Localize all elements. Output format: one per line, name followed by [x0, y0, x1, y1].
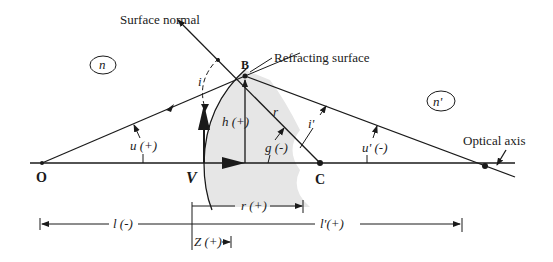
incident-ray-arrow-icon: [166, 104, 174, 112]
label-medium-n: n: [99, 57, 106, 72]
label-dim-r: r (+): [241, 198, 267, 213]
label-point-c: C: [315, 172, 325, 187]
label-angle-u-prime: u' (-): [362, 140, 388, 155]
angle-i-arrow-icon: [201, 104, 209, 112]
refraction-diagram: Surface normal Refracting surface Optica…: [0, 0, 553, 262]
angle-i-prime-pointer2: [320, 106, 326, 115]
label-height-h: h (+): [222, 114, 249, 129]
label-angle-u: u (+): [130, 138, 157, 153]
point-b-dot: [243, 74, 248, 79]
angle-u-prime-pointer: [373, 126, 377, 138]
point-c-dot: [317, 160, 323, 166]
angle-u-pointer: [134, 125, 140, 138]
point-o-dot: [40, 161, 44, 165]
label-surface-normal: Surface normal: [120, 12, 200, 27]
label-point-b: B: [241, 58, 249, 72]
label-dim-z: Z (+): [194, 234, 222, 249]
label-dim-l: l (-): [113, 216, 133, 231]
label-point-v: V: [186, 169, 198, 186]
label-point-o: O: [36, 170, 47, 185]
label-angle-i: i: [198, 74, 202, 89]
label-medium-n-prime: n': [433, 94, 443, 109]
label-refracting-surface: Refracting surface: [274, 50, 370, 65]
label-angle-i-prime: i': [308, 116, 315, 131]
angle-i-prime-pointer: [300, 128, 313, 148]
refracting-surface-leader: [250, 58, 272, 72]
glass-region: [205, 70, 310, 207]
label-dim-l-prime: l'(+): [320, 216, 344, 231]
label-angle-g: g (-): [265, 140, 288, 155]
angle-i-arc: [202, 58, 219, 108]
label-optical-axis: Optical axis: [463, 133, 525, 148]
image-point-dot: [482, 163, 488, 169]
